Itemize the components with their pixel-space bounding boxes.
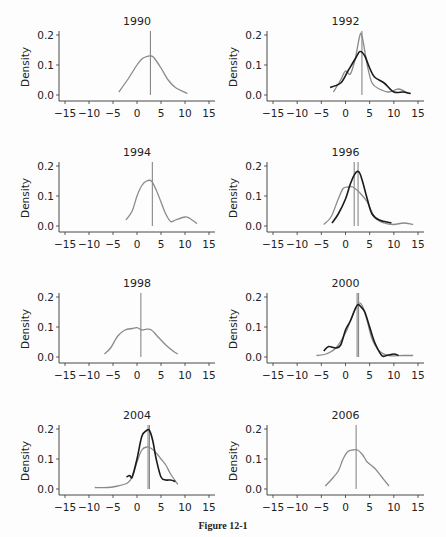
density-panel-2000: 20000.00.10.2Density−15−10−5051015	[227, 277, 425, 381]
y-tick-label: 0.1	[37, 453, 54, 465]
y-axis-label: Density	[19, 47, 31, 87]
panel-title: 1994	[123, 146, 151, 159]
y-tick-label: 0.1	[245, 453, 262, 465]
x-tick-label: −10	[78, 501, 100, 513]
x-tick-label: 15	[411, 107, 424, 119]
x-tick-label: −10	[286, 238, 308, 250]
x-tick-label: −10	[78, 107, 100, 119]
x-tick-label: −10	[286, 501, 308, 513]
x-tick-label: 0	[342, 369, 349, 381]
x-tick-label: −5	[105, 369, 120, 381]
density-curve-black	[332, 171, 391, 223]
x-tick-label: −5	[314, 238, 329, 250]
panel-title: 2000	[332, 277, 360, 290]
y-tick-label: 0.0	[37, 220, 54, 232]
x-tick-label: −10	[78, 369, 100, 381]
x-tick-label: 15	[202, 107, 215, 119]
x-tick-label: −15	[54, 238, 76, 250]
x-tick-label: 15	[202, 238, 215, 250]
x-tick-label: 0	[342, 501, 349, 513]
y-tick-label: 0.1	[245, 59, 262, 71]
y-tick-label: 0.0	[245, 89, 262, 101]
x-tick-label: 5	[158, 107, 165, 119]
y-tick-label: 0.2	[245, 160, 262, 172]
y-tick-label: 0.1	[245, 321, 262, 333]
density-panel-1994: 19940.00.10.2Density−15−10−5051015	[19, 146, 216, 250]
x-tick-label: −5	[314, 501, 329, 513]
x-tick-label: 10	[178, 501, 191, 513]
y-axis-label: Density	[19, 178, 31, 218]
y-axis-label: Density	[227, 309, 239, 349]
y-tick-label: 0.2	[37, 29, 54, 41]
y-axis-label: Density	[227, 441, 239, 481]
y-tick-label: 0.0	[37, 89, 54, 101]
x-tick-label: −5	[105, 107, 120, 119]
y-tick-label: 0.0	[37, 483, 54, 495]
x-tick-label: 0	[134, 369, 141, 381]
x-tick-label: 5	[366, 501, 373, 513]
x-tick-label: 10	[178, 238, 191, 250]
x-tick-label: 15	[411, 238, 424, 250]
x-tick-label: 0	[134, 501, 141, 513]
x-tick-label: 0	[342, 238, 349, 250]
x-tick-label: 5	[158, 238, 165, 250]
x-tick-label: −15	[262, 501, 284, 513]
x-tick-label: 10	[387, 369, 400, 381]
x-tick-label: −15	[54, 369, 76, 381]
density-curve-gray	[119, 56, 188, 94]
y-axis-label: Density	[19, 441, 31, 481]
x-tick-label: 5	[366, 369, 373, 381]
y-tick-label: 0.2	[37, 423, 54, 435]
x-tick-label: −10	[286, 107, 308, 119]
density-curve-gray	[126, 180, 197, 223]
figure-caption: Figure 12-1	[0, 520, 446, 531]
density-curve-gray	[325, 450, 389, 486]
x-tick-label: 10	[387, 501, 400, 513]
y-axis-label: Density	[227, 47, 239, 87]
x-tick-label: −15	[54, 501, 76, 513]
y-tick-label: 0.1	[37, 190, 54, 202]
density-curve-black	[126, 429, 175, 481]
density-curve-gray	[333, 33, 408, 93]
y-tick-label: 0.2	[37, 291, 54, 303]
density-panel-1992: 19920.00.10.2Density−15−10−5051015	[227, 15, 425, 119]
density-panel-1998: 19980.00.10.2Density−15−10−5051015	[19, 277, 216, 381]
y-tick-label: 0.0	[37, 351, 54, 363]
x-tick-label: −5	[314, 369, 329, 381]
y-tick-label: 0.0	[245, 351, 262, 363]
panel-title: 1990	[123, 15, 151, 28]
x-tick-label: −15	[262, 238, 284, 250]
density-panel-1990: 19900.00.10.2Density−15−10−5051015	[19, 15, 216, 119]
x-tick-label: 10	[387, 238, 400, 250]
density-panel-2004: 20040.00.10.2Density−15−10−5051015	[19, 409, 216, 513]
y-tick-label: 0.0	[245, 220, 262, 232]
x-tick-label: −10	[286, 369, 308, 381]
x-tick-label: −15	[262, 107, 284, 119]
x-tick-label: 5	[366, 107, 373, 119]
x-tick-label: −15	[54, 107, 76, 119]
x-tick-label: 15	[411, 369, 424, 381]
x-tick-label: −5	[105, 501, 120, 513]
y-tick-label: 0.2	[37, 160, 54, 172]
x-tick-label: 15	[202, 369, 215, 381]
x-tick-label: 0	[342, 107, 349, 119]
x-tick-label: 0	[134, 238, 141, 250]
panel-title: 1996	[332, 146, 360, 159]
x-tick-label: 15	[411, 501, 424, 513]
x-tick-label: 10	[178, 107, 191, 119]
panel-title: 2006	[332, 409, 360, 422]
y-tick-label: 0.2	[245, 291, 262, 303]
x-tick-label: 5	[158, 369, 165, 381]
x-tick-label: −5	[105, 238, 120, 250]
y-axis-label: Density	[19, 309, 31, 349]
y-tick-label: 0.2	[245, 423, 262, 435]
x-tick-label: 15	[202, 501, 215, 513]
y-tick-label: 0.1	[245, 190, 262, 202]
figure-grid: 19900.00.10.2Density−15−10−505101519920.…	[0, 0, 446, 537]
x-tick-label: 0	[134, 107, 141, 119]
panel-title: 1998	[123, 277, 151, 290]
y-tick-label: 0.1	[37, 321, 54, 333]
y-axis-label: Density	[227, 178, 239, 218]
density-curve-black	[330, 51, 411, 93]
x-tick-label: −5	[314, 107, 329, 119]
